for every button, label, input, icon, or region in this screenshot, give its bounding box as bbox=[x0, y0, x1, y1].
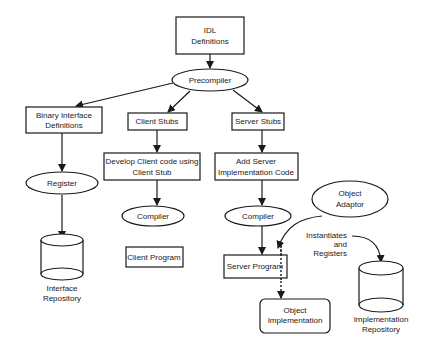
svg-text:and: and bbox=[334, 240, 347, 249]
svg-text:Client Stub: Client Stub bbox=[132, 168, 172, 177]
svg-text:Object: Object bbox=[338, 189, 362, 198]
node-register: Register bbox=[26, 172, 98, 194]
svg-text:Object: Object bbox=[283, 306, 307, 315]
node-object-adaptor: Object Adaptor bbox=[312, 181, 388, 217]
svg-text:Definitions: Definitions bbox=[45, 121, 82, 130]
node-client-stubs: Client Stubs bbox=[128, 113, 187, 130]
node-object-implementation: Object Implementation bbox=[260, 299, 330, 333]
node-client-program: Client Program bbox=[126, 247, 183, 267]
svg-text:Repository: Repository bbox=[43, 294, 81, 303]
svg-text:Develop Client code using: Develop Client code using bbox=[106, 157, 199, 166]
svg-text:Adaptor: Adaptor bbox=[336, 200, 364, 209]
edge-precompiler-binary bbox=[76, 83, 173, 106]
svg-text:Instantiates: Instantiates bbox=[306, 231, 347, 240]
node-server-stubs: Server Stubs bbox=[232, 113, 284, 130]
svg-text:Server Program: Server Program bbox=[227, 262, 284, 271]
node-binary-interface-definitions: Binary Interface Definitions bbox=[26, 107, 102, 133]
svg-text:Server Stubs: Server Stubs bbox=[235, 117, 281, 126]
svg-text:Binary Interface: Binary Interface bbox=[36, 111, 93, 120]
svg-text:Interface: Interface bbox=[46, 284, 78, 293]
svg-text:Implementation: Implementation bbox=[268, 316, 323, 325]
node-implementation-repository: Implementation Repository bbox=[354, 261, 409, 334]
svg-text:Implementation Code: Implementation Code bbox=[218, 168, 295, 177]
edge-instantiates-impl-repo bbox=[352, 236, 381, 262]
edge-precompiler-server-stubs bbox=[233, 90, 262, 112]
svg-text:Add Server: Add Server bbox=[236, 157, 276, 166]
svg-text:Precompiler: Precompiler bbox=[189, 76, 232, 85]
node-interface-repository: Interface Repository bbox=[41, 234, 83, 303]
svg-text:Client Program: Client Program bbox=[127, 253, 181, 262]
node-idl-definitions: IDL Definitions bbox=[176, 17, 244, 54]
svg-text:Client Stubs: Client Stubs bbox=[135, 117, 178, 126]
svg-text:Compiler: Compiler bbox=[137, 212, 169, 221]
svg-text:Register: Register bbox=[47, 179, 77, 188]
svg-text:Definitions: Definitions bbox=[191, 37, 228, 46]
svg-text:Repository: Repository bbox=[362, 325, 400, 334]
node-server-program: Server Program bbox=[224, 255, 287, 278]
node-client-compiler: Compiler bbox=[122, 206, 184, 226]
svg-text:Compiler: Compiler bbox=[242, 212, 274, 221]
diagram-canvas: IDL Definitions Precompiler Binary Inter… bbox=[0, 0, 427, 351]
node-add-server-implementation-code: Add Server Implementation Code bbox=[215, 153, 298, 180]
edge-precompiler-client-stubs bbox=[168, 91, 190, 112]
edge-label-instantiates-registers: Instantiates and Registers bbox=[306, 231, 347, 258]
node-precompiler: Precompiler bbox=[172, 69, 248, 91]
node-develop-client-code: Develop Client code using Client Stub bbox=[104, 153, 200, 180]
svg-text:Implementation: Implementation bbox=[354, 315, 409, 324]
svg-text:IDL: IDL bbox=[204, 26, 217, 35]
svg-text:Registers: Registers bbox=[313, 249, 347, 258]
node-server-compiler: Compiler bbox=[225, 206, 291, 226]
